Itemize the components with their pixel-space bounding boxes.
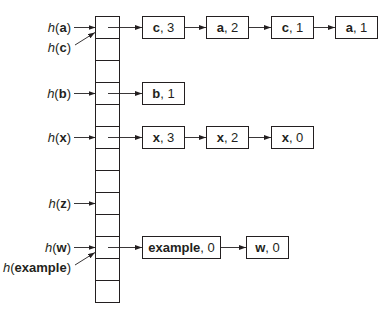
chain-bucket-0: c, 3 a, 2 c, 1 a, 1 (108, 17, 378, 39)
chain-node: w, 0 (247, 237, 289, 259)
hash-label-z: h(z) (49, 196, 71, 211)
svg-text:c, 1: c, 1 (282, 20, 304, 35)
hash-label-x: h(x) (48, 130, 71, 145)
bucket-slot (96, 39, 120, 61)
bucket-slot (96, 193, 120, 215)
chain-node: x, 3 (143, 127, 185, 149)
hash-table-diagram: h(a) h(c) h(b) h(x) h(z) h(w) h(example)… (0, 0, 387, 313)
bucket-slot (96, 171, 120, 193)
chain-bucket-10: example, 0 w, 0 (108, 237, 289, 259)
chain-node: example, 0 (143, 237, 221, 259)
svg-text:b, 1: b, 1 (152, 86, 174, 101)
bucket-slot (96, 259, 120, 281)
hash-label-w: h(w) (45, 240, 71, 255)
chain-node: c, 1 (272, 17, 314, 39)
svg-text:a, 2: a, 2 (217, 20, 239, 35)
hash-labels: h(a) h(c) h(b) h(x) h(z) h(w) h(example) (3, 20, 95, 275)
svg-text:c, 3: c, 3 (153, 20, 175, 35)
svg-text:a, 1: a, 1 (346, 20, 368, 35)
hash-label-b: h(b) (47, 86, 71, 101)
bucket-slot (96, 215, 120, 237)
hash-label-a: h(a) (48, 20, 71, 35)
hash-label-c: h(c) (48, 40, 71, 55)
hash-arrow-c (75, 33, 95, 46)
chain-node: a, 2 (207, 17, 249, 39)
svg-text:x, 0: x, 0 (282, 130, 304, 145)
chain-node: c, 3 (143, 17, 185, 39)
chain-node: b, 1 (143, 83, 185, 105)
svg-text:example, 0: example, 0 (148, 240, 215, 255)
svg-text:w, 0: w, 0 (254, 240, 280, 255)
chain-bucket-5: x, 3 x, 2 x, 0 (108, 127, 314, 149)
bucket-slot (96, 61, 120, 83)
bucket-slot (96, 105, 120, 127)
svg-text:x, 2: x, 2 (217, 130, 239, 145)
chain-node: a, 1 (336, 17, 378, 39)
chain-node: x, 0 (272, 127, 314, 149)
bucket-slot (96, 281, 120, 303)
bucket-array (96, 17, 120, 303)
hash-label-example: h(example) (3, 260, 71, 275)
bucket-slot (96, 149, 120, 171)
hash-arrow-example (75, 253, 95, 266)
svg-text:x, 3: x, 3 (153, 130, 175, 145)
chain-node: x, 2 (207, 127, 249, 149)
